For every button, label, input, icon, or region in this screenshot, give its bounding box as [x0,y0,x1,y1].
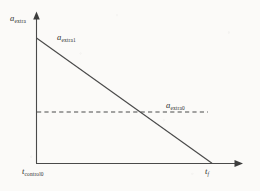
y-axis-label-subscript: extra [14,18,26,24]
x-axis-arrow-icon [235,160,244,167]
y-axis-label: aextra [10,14,26,23]
figure-canvas: aextra aextra1 aextra0 tcontrol0 tf [0,0,260,191]
x-axis-final-label: tf [205,167,209,176]
series-label-a-extra1: aextra1 [57,33,76,42]
series-line-a-extra1 [37,38,213,163]
x-axis-origin-subscript: control0 [25,171,44,177]
series-label-a-extra1-subscript: extra1 [61,37,75,43]
x-axis-origin-label: tcontrol0 [22,167,44,176]
y-axis-arrow-icon [33,12,40,20]
series-label-a-extra0: aextra0 [166,101,185,110]
x-axis-final-subscript: f [208,171,210,177]
plot-area [0,0,260,191]
series-label-a-extra0-subscript: extra0 [170,105,184,111]
